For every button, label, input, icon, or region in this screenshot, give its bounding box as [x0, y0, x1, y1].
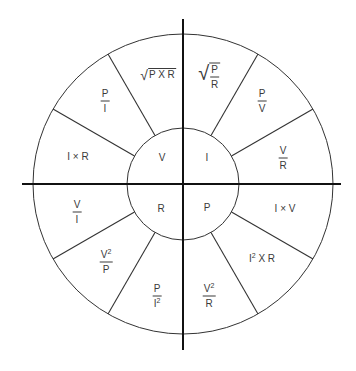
formula-v-squared-over-r: V2R [203, 284, 216, 309]
formula-v-over-i: VI [73, 200, 82, 225]
formula-i-squared-times-r: I2 X R [249, 254, 275, 264]
formula-p-over-i-squared: PI2 [153, 284, 162, 309]
formula-v-squared-over-p: V2P [100, 250, 113, 275]
formula-sqrt-p-over-r: √ PR [198, 63, 220, 90]
formula-v-over-r: VR [279, 146, 288, 171]
inner-label-voltage: V [159, 153, 166, 163]
formula-i-times-v: I × V [275, 204, 296, 214]
inner-label-power: P [204, 203, 211, 213]
formula-i-times-r: I × R [67, 152, 88, 162]
inner-label-current: I [206, 153, 209, 163]
formula-sqrt-p-times-r: √P X R [140, 68, 176, 82]
formula-p-over-v: PV [258, 89, 267, 114]
formula-p-over-i: PI [101, 89, 110, 114]
inner-label-resistance: R [157, 204, 164, 214]
formula-wheel [0, 0, 356, 371]
